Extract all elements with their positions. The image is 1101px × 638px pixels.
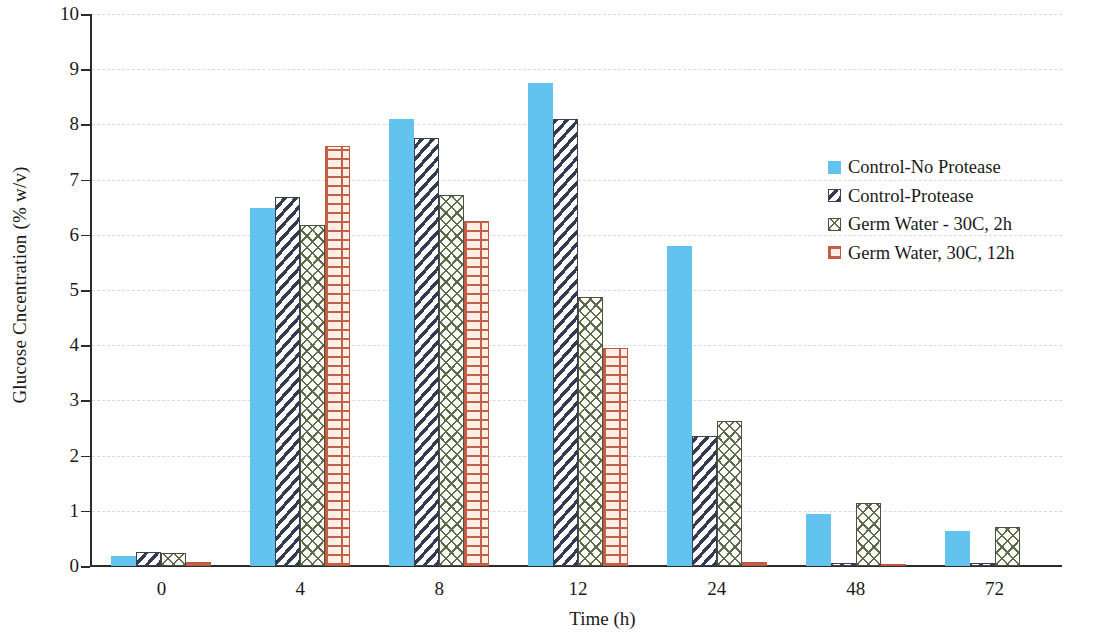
y-tick-label: 3 bbox=[70, 391, 80, 410]
y-tick-label: 7 bbox=[70, 170, 80, 189]
bar bbox=[325, 146, 350, 566]
bar-series-container bbox=[92, 14, 1062, 566]
bar bbox=[414, 138, 439, 566]
y-tick-mark bbox=[81, 566, 90, 568]
legend-swatch-icon bbox=[828, 161, 841, 174]
x-tick-label: 24 bbox=[707, 578, 726, 600]
bar bbox=[186, 562, 211, 566]
y-tick-label: 0 bbox=[70, 556, 80, 575]
x-tick-label: 72 bbox=[985, 578, 1004, 600]
bar bbox=[717, 421, 742, 566]
legend-item[interactable]: Germ Water, 30C, 12h bbox=[828, 244, 1014, 263]
bar bbox=[136, 552, 161, 566]
y-tick-mark bbox=[81, 345, 90, 347]
y-tick-mark bbox=[81, 14, 90, 16]
bar bbox=[806, 514, 831, 566]
glucose-concentration-bar-chart: Glucose Cncentration (% w/v) 01234567891… bbox=[0, 0, 1101, 638]
y-tick-mark bbox=[81, 290, 90, 292]
bar bbox=[945, 531, 970, 566]
bar-group bbox=[667, 14, 767, 566]
chart-legend: Control-No ProteaseControl-ProteaseGerm … bbox=[828, 158, 1014, 262]
bar bbox=[692, 436, 717, 566]
x-tick-label: 4 bbox=[296, 578, 306, 600]
bar bbox=[275, 197, 300, 566]
bar-group bbox=[945, 14, 1045, 566]
bar bbox=[111, 556, 136, 566]
legend-item[interactable]: Germ Water - 30C, 2h bbox=[828, 215, 1014, 234]
bar bbox=[742, 562, 767, 566]
bar-group bbox=[389, 14, 489, 566]
bar bbox=[831, 563, 856, 566]
bar bbox=[464, 221, 489, 566]
y-tick-mark bbox=[81, 235, 90, 237]
bar bbox=[970, 563, 995, 566]
y-tick-label: 9 bbox=[70, 59, 80, 78]
x-axis-title-text: Time (h) bbox=[569, 608, 635, 629]
y-tick-label: 6 bbox=[70, 225, 80, 244]
bar bbox=[161, 553, 186, 566]
bar bbox=[603, 348, 628, 566]
legend-item[interactable]: Control-Protease bbox=[828, 187, 1014, 206]
x-tick-label: 12 bbox=[569, 578, 588, 600]
bar bbox=[389, 119, 414, 566]
bar bbox=[528, 83, 553, 566]
y-tick-label: 10 bbox=[60, 4, 79, 23]
plot-area: 012345678910 bbox=[90, 14, 1062, 566]
bar bbox=[250, 208, 275, 566]
y-tick-label: 2 bbox=[70, 446, 80, 465]
bar bbox=[439, 195, 464, 566]
y-tick-label: 8 bbox=[70, 115, 80, 134]
bar bbox=[300, 225, 325, 566]
y-tick-mark bbox=[81, 400, 90, 402]
y-tick-label: 1 bbox=[70, 501, 80, 520]
bar bbox=[995, 527, 1020, 566]
x-tick-label: 0 bbox=[157, 578, 167, 600]
bar-group bbox=[806, 14, 906, 566]
y-tick-label: 5 bbox=[70, 280, 80, 299]
legend-swatch-icon bbox=[828, 246, 841, 259]
x-tick-label: 48 bbox=[846, 578, 865, 600]
x-tick-label: 8 bbox=[434, 578, 444, 600]
legend-label: Germ Water, 30C, 12h bbox=[848, 244, 1014, 263]
legend-label: Germ Water - 30C, 2h bbox=[848, 215, 1012, 234]
y-tick-mark bbox=[81, 180, 90, 182]
x-axis-title: Time (h) bbox=[0, 608, 1101, 630]
bar-group bbox=[250, 14, 350, 566]
legend-item[interactable]: Control-No Protease bbox=[828, 158, 1014, 177]
legend-label: Control-No Protease bbox=[848, 158, 1001, 177]
bar bbox=[667, 246, 692, 566]
legend-swatch-icon bbox=[828, 189, 841, 202]
y-axis-title: Glucose Cncentration (% w/v) bbox=[2, 0, 38, 570]
y-tick-label: 4 bbox=[70, 335, 80, 354]
y-tick-mark bbox=[81, 511, 90, 513]
y-tick-mark bbox=[81, 69, 90, 71]
y-axis-title-text: Glucose Cncentration (% w/v) bbox=[9, 166, 31, 403]
legend-swatch-icon bbox=[828, 218, 841, 231]
bar bbox=[553, 119, 578, 566]
bar bbox=[881, 564, 906, 566]
bar bbox=[578, 297, 603, 566]
legend-label: Control-Protease bbox=[848, 187, 973, 206]
bar bbox=[856, 503, 881, 566]
bar-group bbox=[111, 14, 211, 566]
bar-group bbox=[528, 14, 628, 566]
y-tick-mark bbox=[81, 456, 90, 458]
y-tick-mark bbox=[81, 124, 90, 126]
